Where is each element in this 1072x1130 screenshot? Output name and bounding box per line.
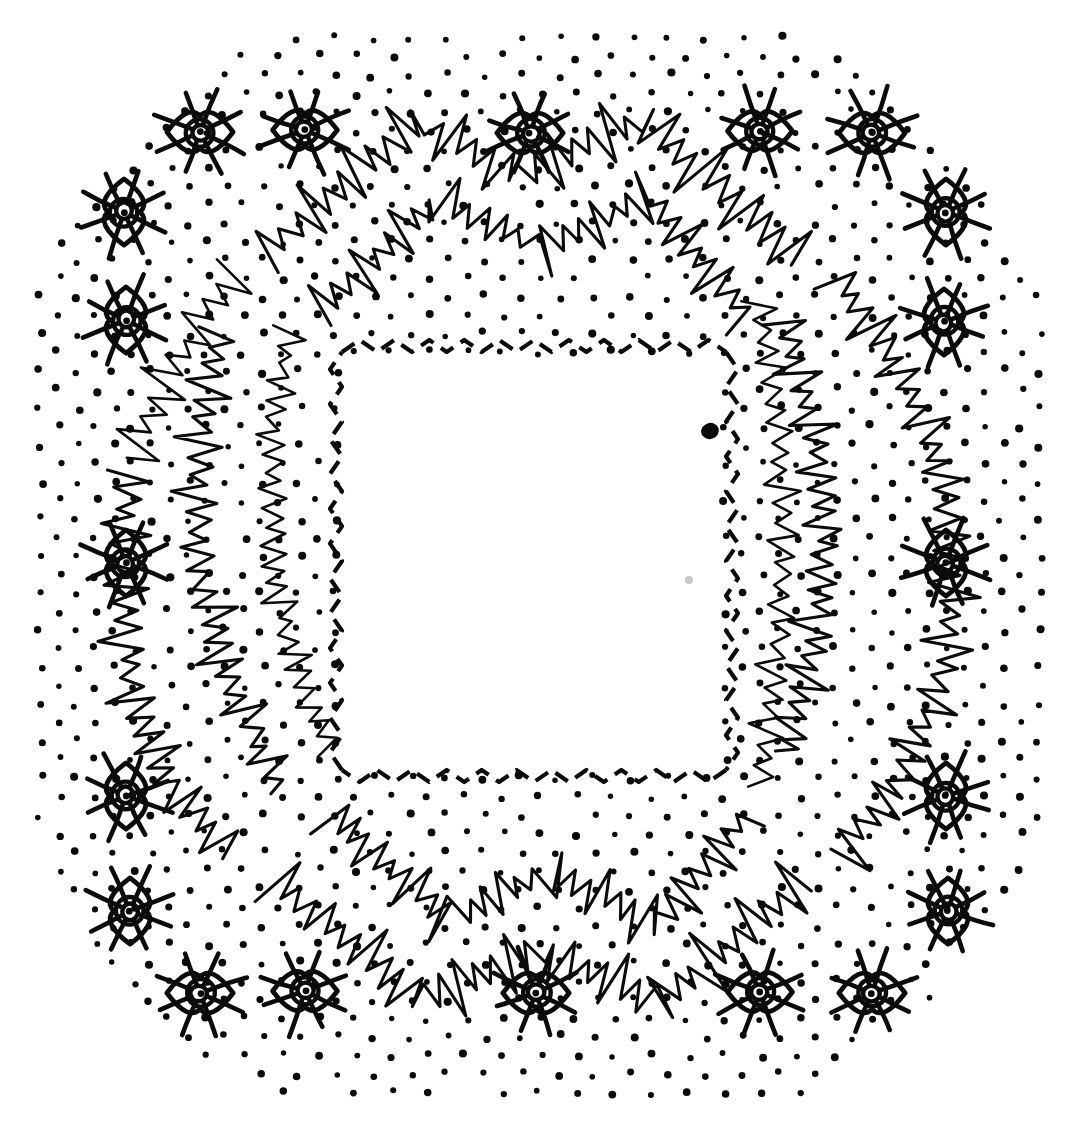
- dot-mark: [107, 367, 115, 375]
- dot-mark: [482, 75, 488, 81]
- dot-mark: [832, 350, 840, 358]
- dot-mark: [961, 439, 969, 447]
- dot-mark: [681, 793, 687, 799]
- dot-mark: [92, 795, 99, 802]
- dot-mark: [909, 794, 916, 801]
- dot-mark: [718, 90, 725, 97]
- dot-mark: [1001, 439, 1009, 447]
- dot-mark: [461, 791, 467, 797]
- dot-mark: [774, 184, 780, 190]
- dot-mark: [848, 106, 854, 112]
- dot-mark: [662, 182, 670, 190]
- dot-mark: [981, 832, 987, 838]
- dot-mark: [869, 1016, 876, 1023]
- dot-mark: [868, 569, 876, 577]
- dot-mark: [38, 329, 46, 337]
- dot-mark: [831, 461, 837, 467]
- dot-mark: [126, 832, 133, 839]
- dot-mark: [222, 813, 229, 820]
- dot-mark: [552, 850, 559, 857]
- dot-mark: [353, 130, 360, 137]
- dot-mark: [662, 959, 670, 967]
- dot-mark: [56, 421, 63, 428]
- dot-mark: [335, 369, 343, 377]
- dot-mark: [258, 403, 265, 410]
- dot-mark: [389, 1016, 394, 1021]
- dot-mark: [54, 534, 60, 540]
- dot-mark: [351, 236, 358, 243]
- dot-mark: [940, 389, 948, 397]
- dot-mark: [353, 92, 361, 100]
- dot-mark: [1036, 403, 1042, 409]
- dot-mark: [71, 886, 77, 892]
- dot-mark: [757, 350, 764, 357]
- dot-mark: [238, 199, 244, 205]
- dot-mark: [240, 828, 248, 836]
- dot-mark: [574, 1090, 581, 1097]
- dot-mark: [998, 588, 1006, 596]
- dot-mark: [315, 793, 323, 801]
- dot-mark: [218, 959, 226, 967]
- dot-mark: [256, 440, 262, 446]
- dot-mark: [739, 1072, 746, 1079]
- dot-mark: [980, 791, 988, 799]
- dot-mark: [409, 851, 414, 856]
- dot-mark: [760, 571, 767, 578]
- dot-mark: [683, 1018, 689, 1024]
- dot-mark: [185, 776, 191, 782]
- dot-mark: [298, 518, 305, 525]
- dot-mark: [537, 940, 544, 947]
- dot-mark: [237, 52, 243, 58]
- dot-mark: [572, 127, 579, 134]
- dot-mark: [850, 627, 856, 633]
- dot-mark: [478, 108, 484, 114]
- dot-mark: [112, 478, 120, 486]
- dot-mark: [517, 295, 524, 302]
- dot-mark: [756, 1017, 762, 1023]
- dot-mark: [92, 906, 98, 912]
- dot-mark: [519, 35, 525, 41]
- dot-mark: [834, 571, 842, 579]
- dot-mark: [982, 460, 990, 468]
- dot-mark: [814, 813, 820, 819]
- dot-mark: [558, 33, 564, 39]
- dot-mark: [922, 702, 930, 710]
- dot-mark: [1038, 589, 1045, 596]
- dot-mark: [761, 425, 768, 432]
- dot-mark: [719, 497, 727, 505]
- dot-mark: [111, 439, 119, 447]
- eye-pupil: [868, 990, 875, 997]
- dot-mark: [58, 460, 64, 466]
- dot-mark: [758, 1090, 765, 1097]
- dot-mark: [1017, 277, 1023, 283]
- dot-mark: [591, 182, 599, 190]
- dot-mark: [257, 1070, 265, 1078]
- dot-mark: [203, 1052, 209, 1058]
- dot-mark: [109, 959, 114, 964]
- dot-mark: [444, 295, 451, 302]
- dot-mark: [335, 1072, 341, 1078]
- dot-mark: [223, 921, 230, 928]
- dot-mark: [463, 54, 469, 60]
- dot-mark: [71, 516, 78, 523]
- dot-mark: [871, 758, 879, 766]
- dot-mark: [724, 902, 730, 908]
- dot-mark: [927, 995, 933, 1001]
- dot-mark: [298, 552, 306, 560]
- dot-mark: [278, 1016, 285, 1023]
- dot-mark: [682, 55, 689, 62]
- dot-mark: [980, 311, 988, 319]
- dot-mark: [352, 868, 360, 876]
- dot-mark: [164, 866, 170, 872]
- dot-mark: [833, 1014, 840, 1021]
- dot-mark: [700, 37, 707, 44]
- dot-mark: [518, 814, 525, 821]
- dot-mark: [1000, 773, 1006, 779]
- dot-mark: [56, 610, 63, 617]
- dot-mark: [978, 865, 985, 872]
- dot-mark: [625, 179, 633, 187]
- dot-mark: [55, 312, 61, 318]
- dot-mark: [34, 365, 42, 373]
- dot-mark: [410, 1072, 416, 1078]
- dot-mark: [206, 904, 212, 910]
